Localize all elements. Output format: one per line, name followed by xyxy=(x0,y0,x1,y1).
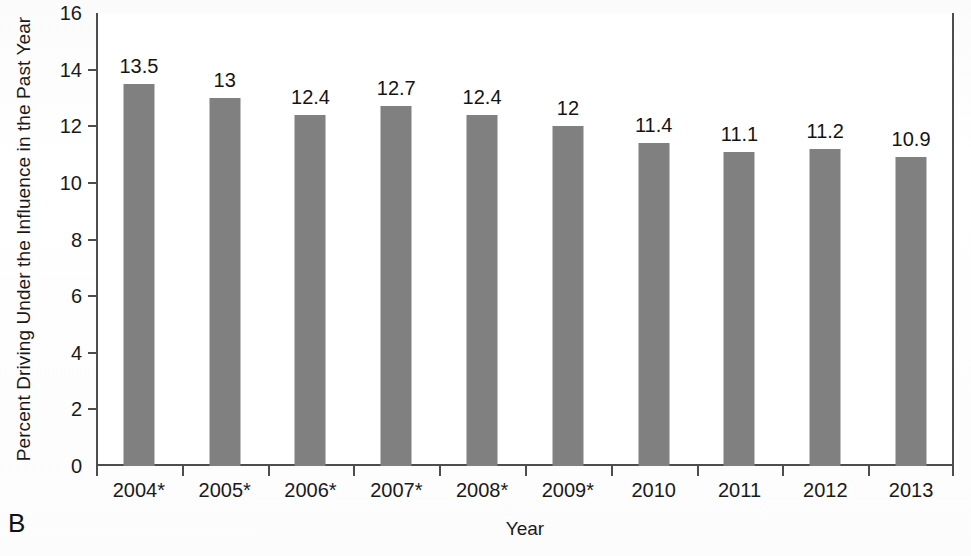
x-tick-mark xyxy=(525,466,527,476)
bar-value-label: 11.4 xyxy=(635,114,672,137)
x-axis-tick-label: 2012 xyxy=(803,479,848,502)
bar-group[interactable]: 12.7 xyxy=(353,13,439,466)
bar-value-label: 12.7 xyxy=(377,77,416,100)
bar-value-label: 12.4 xyxy=(291,86,330,109)
x-tick-mark xyxy=(782,466,784,476)
x-axis-tick-label: 2009* xyxy=(542,479,594,502)
bar-value-label: 12 xyxy=(557,97,579,120)
x-axis-tick-label: 2007* xyxy=(370,479,422,502)
bar-group[interactable]: 11.2 xyxy=(782,13,868,466)
x-tick-mark xyxy=(439,466,441,476)
bar-group[interactable]: 12.4 xyxy=(439,13,525,466)
x-tick-mark xyxy=(182,466,184,476)
y-tick-label: 10 xyxy=(40,170,82,196)
x-tick-mark xyxy=(353,466,355,476)
bars-layer: 13.51312.412.712.41211.411.111.210.9 xyxy=(96,13,954,466)
x-tick-mark xyxy=(611,466,613,476)
bar[interactable] xyxy=(724,152,755,466)
x-axis-tick-label: 2004* xyxy=(113,479,165,502)
x-tick-mark xyxy=(697,466,699,476)
bar[interactable] xyxy=(552,126,583,466)
bar-group[interactable]: 11.1 xyxy=(697,13,783,466)
x-axis-tick-label: 2013 xyxy=(889,479,934,502)
y-tick-label: 8 xyxy=(40,227,82,253)
bar-group[interactable]: 12.4 xyxy=(268,13,354,466)
y-tick-label: 2 xyxy=(40,396,82,422)
bar[interactable] xyxy=(810,149,841,466)
bar-value-label: 10.9 xyxy=(892,128,931,151)
bar-group[interactable]: 13 xyxy=(182,13,268,466)
bar-value-label: 12.4 xyxy=(463,86,502,109)
x-tick-mark xyxy=(952,466,954,476)
x-axis-tick-label: 2011 xyxy=(718,479,761,502)
bar-group[interactable]: 11.4 xyxy=(611,13,697,466)
bar-group[interactable]: 10.9 xyxy=(868,13,954,466)
y-axis-title: Percent Driving Under the Influence in t… xyxy=(13,9,35,469)
x-axis-tick-label: 2006* xyxy=(284,479,336,502)
bar[interactable] xyxy=(209,98,240,466)
bar-group[interactable]: 13.5 xyxy=(96,13,182,466)
x-axis-tick-label: 2010 xyxy=(631,479,676,502)
bar-value-label: 11.1 xyxy=(721,123,758,146)
x-tick-mark xyxy=(868,466,870,476)
y-tick-label: 0 xyxy=(40,453,82,479)
bar[interactable] xyxy=(467,115,498,466)
bar[interactable] xyxy=(295,115,326,466)
x-axis-tick-label: 2005* xyxy=(199,479,251,502)
bar[interactable] xyxy=(123,84,154,466)
x-axis-labels: 2004*2005*2006*2007*2008*2009*2010201120… xyxy=(96,479,954,509)
y-tick-label: 6 xyxy=(40,283,82,309)
x-axis-ticks xyxy=(96,466,954,478)
x-axis-title: Year xyxy=(96,518,954,540)
bar-value-label: 11.2 xyxy=(807,120,844,143)
x-axis-tick-label: 2008* xyxy=(456,479,508,502)
y-tick-label: 16 xyxy=(40,0,82,26)
bar[interactable] xyxy=(381,106,412,466)
y-tick-label: 4 xyxy=(40,340,82,366)
x-tick-mark xyxy=(96,466,98,476)
bar-group[interactable]: 12 xyxy=(525,13,611,466)
bar[interactable] xyxy=(896,157,927,466)
y-tick-label: 12 xyxy=(40,113,82,139)
bar-value-label: 13.5 xyxy=(119,55,158,78)
x-tick-mark xyxy=(268,466,270,476)
bar[interactable] xyxy=(638,143,669,466)
bar-chart-figure: Percent Driving Under the Influence in t… xyxy=(0,0,971,556)
panel-label: B xyxy=(8,508,25,539)
bar-value-label: 13 xyxy=(214,69,236,92)
y-tick-label: 14 xyxy=(40,57,82,83)
